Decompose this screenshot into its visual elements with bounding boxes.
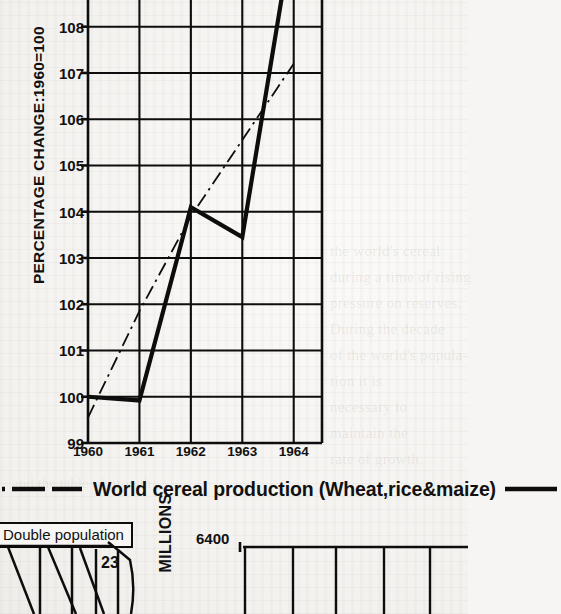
chart-caption: World cereal production (Wheat,rice&maiz… (0, 472, 468, 506)
bottom-fragment-canvas (0, 516, 468, 614)
y-tick-102: 102 (40, 296, 84, 313)
legend-dash-dot-rule (0, 482, 84, 496)
y-tick-106: 106 (40, 111, 84, 128)
caption-text: World cereal production (Wheat,rice&maiz… (93, 478, 496, 501)
population-fan-diagram (0, 542, 133, 614)
x-tick-1962: 1962 (163, 444, 219, 459)
gridlines (88, 0, 322, 443)
cereal-production-chart: PERCENTAGE CHANGE:1960=100 9910010110210… (0, 0, 468, 466)
bottom-figure-fragments: Double population 23 MILLIONS 6400 (0, 516, 468, 614)
y-tick-108: 108 (40, 18, 84, 35)
x-tick-1960: 1960 (60, 444, 116, 459)
x-tick-1963: 1963 (214, 444, 270, 459)
axis-frame (81, 0, 322, 443)
legend-solid-rule (505, 482, 561, 496)
millions-chart-fragment (240, 542, 468, 614)
x-tick-1964: 1964 (266, 444, 322, 459)
y-tick-107: 107 (40, 64, 84, 81)
millions-axis-label: MILLIONS (157, 478, 175, 588)
y-tick-104: 104 (40, 203, 84, 220)
millions-axis-tick: 6400 (196, 530, 229, 547)
y-tick-101: 101 (40, 342, 84, 359)
y-tick-103: 103 (40, 249, 84, 266)
y-axis-tick-labels: 99100101102103104105106107108 (32, 0, 84, 466)
y-tick-100: 100 (40, 388, 84, 405)
y-tick-105: 105 (40, 157, 84, 174)
x-tick-1961: 1961 (111, 444, 167, 459)
